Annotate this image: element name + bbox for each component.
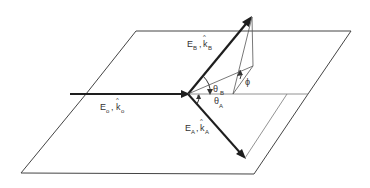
a-projection [245,94,287,158]
svg-text:^: ^ [200,118,203,124]
svg-text:o: o [106,108,110,114]
label-wave-a: E A , k ^ A [185,118,209,135]
lower-plane [21,94,308,174]
svg-text:,: , [199,39,202,49]
svg-text:,: , [111,102,114,112]
label-theta-a: θ A [214,96,223,109]
svg-text:B: B [193,45,197,51]
svg-text:ϕ: ϕ [245,77,250,87]
svg-text:B: B [208,45,212,51]
upper-plane [86,31,351,94]
label-phi: ϕ [245,77,250,87]
svg-text:^: ^ [116,97,119,103]
svg-text:,: , [196,123,199,133]
svg-text:A: A [219,103,223,109]
svg-text:A: A [191,129,195,135]
wave-diagram: E o , k ^ o E B , k ^ B E A , k ^ A θ B … [0,0,370,188]
b-vertical-drop [252,17,253,66]
svg-text:θ: θ [213,84,218,94]
label-wave-b: E B , k ^ B [187,34,212,51]
svg-text:A: A [205,129,209,135]
svg-text:B: B [220,90,224,96]
label-incident: E o , k ^ o [100,97,125,114]
svg-text:^: ^ [203,34,206,40]
svg-text:o: o [121,108,125,114]
theta-a-arrow-icon [196,94,201,99]
